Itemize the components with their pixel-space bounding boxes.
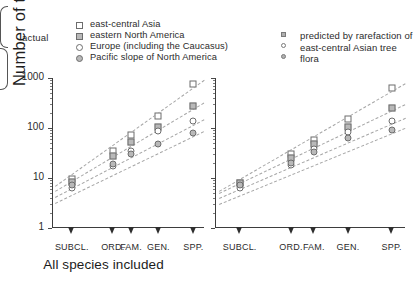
y-axis-line — [215, 78, 216, 228]
data-point — [190, 129, 197, 136]
legend-symbol-open-circle — [76, 43, 83, 53]
data-point — [388, 85, 395, 92]
y-axis-minor-tick — [213, 186, 216, 187]
y-axis-tick — [48, 78, 52, 79]
data-point — [236, 181, 243, 188]
y-axis-tick — [211, 128, 215, 129]
y-axis-minor-tick — [213, 93, 216, 94]
data-point — [128, 151, 135, 158]
y-axis-minor-tick — [50, 143, 53, 144]
y-axis-minor-tick — [50, 193, 53, 194]
y-axis-minor-tick — [213, 183, 216, 184]
chart-panel-left: Number of taxa 1101001000SUBCL.ORD.FAM.G… — [0, 60, 207, 302]
x-axis-tick-label: GEN. — [147, 242, 170, 252]
y-axis-tick — [211, 178, 215, 179]
y-axis-minor-tick — [50, 136, 53, 137]
chart-panel-right: SUBCL.ORD.FAM.GEN.SPP. Species of predom… — [207, 60, 414, 302]
y-axis-minor-tick — [213, 130, 216, 131]
x-axis-tick-label: SUBCL. — [55, 242, 89, 252]
x-axis-marker-arrow — [155, 227, 161, 234]
y-axis-tick — [211, 228, 215, 229]
y-axis-minor-tick — [50, 113, 53, 114]
x-axis-tick-label: SPP. — [183, 242, 203, 252]
data-point — [155, 112, 162, 119]
y-axis-minor-tick — [50, 213, 53, 214]
chart-legend: actual east-central Asia eastern North A… — [0, 6, 414, 58]
y-axis-minor-tick — [213, 193, 216, 194]
data-point — [345, 116, 352, 123]
y-axis-tick-label: 1000 — [4, 71, 44, 82]
x-axis-tick-label: ORD. — [279, 242, 302, 252]
y-axis-minor-tick — [50, 86, 53, 87]
x-axis-marker-arrow — [68, 227, 74, 234]
y-axis-minor-tick — [50, 183, 53, 184]
y-axis-minor-tick — [213, 213, 216, 214]
y-axis-minor-tick — [213, 86, 216, 87]
y-axis-minor-tick — [213, 143, 216, 144]
y-axis-minor-tick — [50, 93, 53, 94]
y-axis-tick-label: 100 — [4, 121, 44, 132]
y-axis-minor-tick — [50, 198, 53, 199]
y-axis-tick — [48, 128, 52, 129]
y-axis-minor-tick — [213, 154, 216, 155]
y-axis-minor-tick — [50, 148, 53, 149]
legend-predicted-symbol-open-circle — [281, 43, 286, 48]
data-point — [388, 104, 395, 111]
legend-predicted-symbol-gray-square — [281, 32, 286, 37]
x-axis-tick-label: SUBCL. — [223, 242, 257, 252]
y-axis-minor-tick — [213, 113, 216, 114]
data-point — [190, 80, 197, 87]
x-axis-marker-arrow — [310, 227, 316, 234]
x-axis-marker-arrow — [236, 227, 242, 234]
legend-item-label: eastern North America — [90, 30, 185, 40]
y-axis-minor-tick — [213, 204, 216, 205]
y-axis-tick — [211, 78, 215, 79]
data-point — [68, 181, 75, 188]
y-axis-minor-tick — [213, 139, 216, 140]
y-axis-label-wrap: Number of taxa — [12, 66, 34, 246]
data-point — [155, 128, 162, 135]
data-point — [310, 149, 317, 156]
x-axis-marker-arrow — [128, 227, 134, 234]
plot-area-left: 1101001000SUBCL.ORD.FAM.GEN.SPP. — [52, 60, 204, 232]
y-axis-tick — [48, 228, 52, 229]
x-axis-marker-arrow — [388, 227, 394, 234]
y-axis-tick-label: 10 — [4, 171, 44, 182]
y-axis-minor-tick — [213, 98, 216, 99]
y-axis-minor-tick — [213, 83, 216, 84]
y-axis-minor-tick — [50, 180, 53, 181]
data-point — [190, 118, 197, 125]
y-axis-minor-tick — [50, 83, 53, 84]
legend-item-label: Europe (including the Caucasus) — [90, 41, 228, 51]
y-axis-minor-tick — [50, 189, 53, 190]
data-point — [190, 102, 197, 109]
legend-predicted-symbol-gray-circle — [281, 54, 286, 59]
data-point — [288, 159, 295, 166]
data-point — [109, 153, 116, 160]
y-axis-minor-tick — [213, 136, 216, 137]
y-axis-minor-tick — [213, 148, 216, 149]
legend-left-brace — [0, 6, 8, 48]
predicted-trend-line — [219, 118, 406, 199]
x-axis-tick-label: FAM. — [303, 242, 325, 252]
y-axis-minor-tick — [50, 98, 53, 99]
y-axis-minor-tick — [213, 80, 216, 81]
y-axis-minor-tick — [213, 198, 216, 199]
y-axis-minor-tick — [50, 186, 53, 187]
y-axis-minor-tick — [50, 130, 53, 131]
x-axis-tick-label: GEN. — [337, 242, 360, 252]
data-point — [128, 138, 135, 145]
x-axis-marker-arrow — [345, 227, 351, 234]
legend-item-label: east-central Asia — [90, 19, 160, 29]
y-axis-line — [52, 78, 53, 228]
legend-symbol-open-square — [76, 21, 83, 31]
y-axis-minor-tick — [50, 80, 53, 81]
y-axis-minor-tick — [213, 89, 216, 90]
data-point — [388, 126, 395, 133]
data-point — [155, 141, 162, 148]
y-axis-tick — [48, 178, 52, 179]
data-point — [109, 161, 116, 168]
y-axis-minor-tick — [50, 104, 53, 105]
data-point — [388, 117, 395, 124]
y-axis-minor-tick — [50, 139, 53, 140]
